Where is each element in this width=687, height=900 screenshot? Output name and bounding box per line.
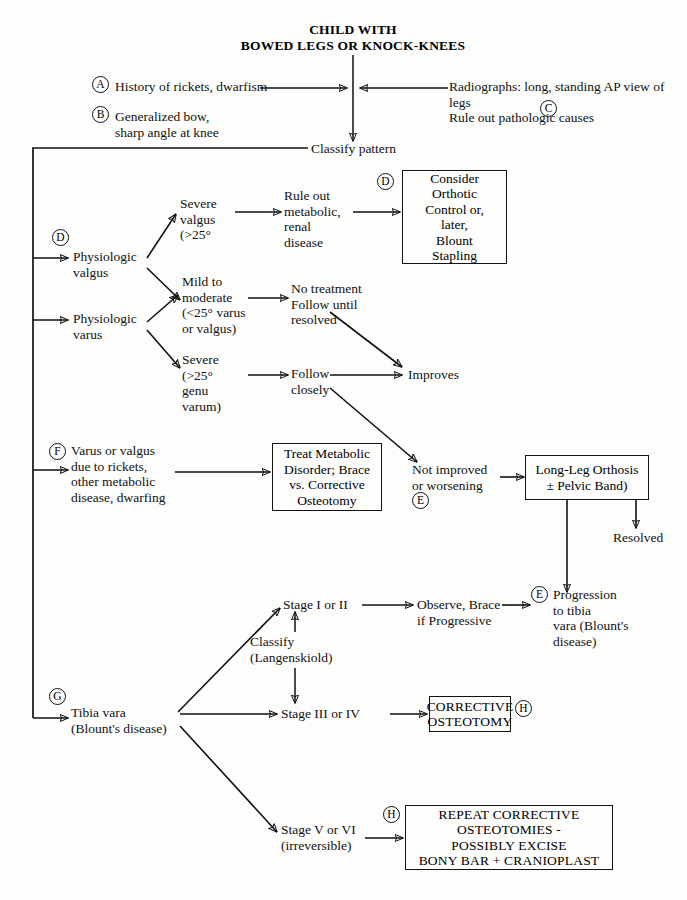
marker-h-corrective-osteotomy: H — [515, 700, 532, 717]
marker-d-orthotic-box: D — [377, 173, 394, 190]
box-consider-orthotic-control: Consider Orthotic Control or, later, Blo… — [402, 170, 507, 264]
marker-d-physiologic-valgus: D — [52, 229, 69, 246]
box-repeat-corrective-osteotomies: REPEAT CORRECTIVE OSTEOTOMIES - POSSIBLY… — [405, 805, 613, 870]
node-radiographs: Radiographs: long, standing AP view of l… — [449, 79, 687, 126]
node-progression-to-tibia-vara: Progression to tibia vara (Blount's dise… — [553, 587, 629, 649]
node-rule-out-metabolic: Rule out metabolic, renal disease — [284, 188, 341, 250]
box-treat-metabolic-disorder: Treat Metabolic Disorder; Brace vs. Corr… — [272, 443, 382, 511]
node-resolved: Resolved — [613, 530, 663, 546]
marker-e-progression: E — [531, 586, 548, 603]
marker-b: B — [92, 106, 109, 123]
node-mild-to-moderate: Mild to moderate (<25° varus or valgus) — [182, 274, 246, 336]
node-observe-brace: Observe, Brace if Progressive — [417, 597, 500, 628]
flowchart-canvas: CHILD WITH BOWED LEGS OR KNOCK-KNEES A B… — [0, 0, 687, 900]
node-improves: Improves — [408, 367, 459, 383]
node-tibia-vara: Tibia vara (Blount's disease) — [71, 705, 167, 736]
box-long-leg-orthosis: Long-Leg Orthosis ± Pelvic Band) — [525, 455, 649, 500]
diagram-title: CHILD WITH BOWED LEGS OR KNOCK-KNEES — [213, 22, 493, 54]
node-severe-valgus: Severe valgus (>25° — [180, 196, 217, 243]
marker-f: F — [49, 443, 66, 460]
node-physiologic-varus: Physiologic varus — [73, 311, 137, 342]
node-generalized-bow: Generalized bow, sharp angle at knee — [115, 109, 219, 140]
box-corrective-osteotomy: CORRECTIVE OSTEOTOMY — [429, 696, 511, 732]
node-follow-closely: Follow closely — [291, 366, 329, 397]
node-stage-1-or-2: Stage I or II — [283, 597, 348, 613]
node-no-treatment: No treatment Follow until resolved — [291, 281, 362, 328]
marker-g: G — [49, 688, 66, 705]
node-not-improved: Not improved or worsening — [412, 462, 487, 493]
marker-e-not-improved: E — [412, 492, 429, 509]
node-classify-langenskiold: Classify (Langenskiold) — [250, 634, 332, 665]
node-stage-5-or-6: Stage V or VI (irreversible) — [281, 822, 356, 853]
node-stage-3-or-4: Stage III or IV — [281, 706, 360, 722]
node-physiologic-valgus: Physiologic valgus — [73, 249, 137, 280]
marker-h-repeat-corrective: H — [383, 806, 400, 823]
node-severe-genu-varum: Severe (>25° genu varum) — [182, 352, 221, 414]
node-varus-valgus-rickets: Varus or valgus due to rickets, other me… — [71, 443, 165, 505]
marker-a: A — [92, 76, 109, 93]
node-history-of-rickets: History of rickets, dwarfism — [115, 79, 267, 95]
node-classify-pattern: Classify pattern — [311, 141, 396, 157]
